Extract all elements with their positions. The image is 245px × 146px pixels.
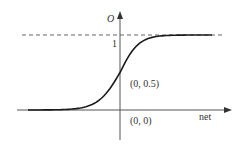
origin-label: (0, 0): [130, 115, 152, 127]
x-axis-arrow-icon: [224, 107, 232, 113]
x-axis-label: net: [199, 111, 211, 122]
tick-label-one: 1: [112, 38, 117, 49]
midpoint-label: (0, 0.5): [130, 78, 159, 90]
y-axis-label: O: [107, 13, 114, 24]
sigmoid-chart: O 1 (0, 0.5) (0, 0) net: [0, 0, 245, 146]
y-axis-arrow-icon: [117, 11, 123, 19]
